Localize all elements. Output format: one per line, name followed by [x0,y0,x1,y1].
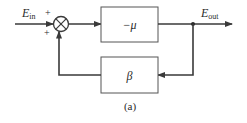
input-label: Ein [21,6,36,21]
feedback-block: β [101,57,158,93]
output-label: Eout [200,6,219,21]
summing-junction-icon [54,17,69,32]
forward-block-label: −μ [122,18,136,32]
plus-sign-top: + [45,7,51,18]
figure-caption: (a) [124,100,137,113]
feedback-path-right [158,24,193,75]
feedback-block-label: β [126,69,133,83]
feedback-diagram: Ein + + −μ Eout β (a) [0,0,247,123]
plus-sign-bottom: + [44,27,50,38]
feedback-path-left [59,32,101,76]
forward-block: −μ [101,7,158,42]
